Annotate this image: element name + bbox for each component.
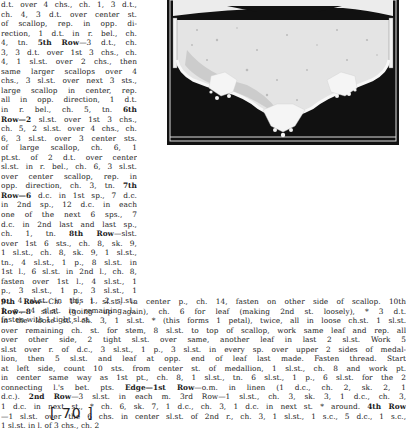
text-line: 4, tn. 5th Row—3 d.t., ch. — [1, 38, 137, 48]
text-line: at left side, count 10 sts. from center … — [1, 364, 406, 374]
text-line: pt.st. of 2 d.t. over center — [1, 153, 137, 163]
text-line: connecting l.'s bet. pts. Edge—1st Row—o… — [1, 383, 406, 393]
text-line: in the loose st., ch. 3, 1 sl.st. * (thi… — [1, 316, 406, 326]
text-line: d.t. over 4 chs., ch. 1, 3 d.t., — [1, 0, 137, 10]
text-line: of scallop, rep. in opp. di- — [1, 19, 137, 29]
text-line: rection, 1 d.t. in r. bel., ch. — [1, 29, 137, 39]
text-line: over remaining ch. st. for stem, 8 sl.st… — [1, 326, 406, 336]
text-line: of large scallop, ch. 6, 1 — [1, 143, 137, 153]
text-line: d.c. in 2nd last and last sp., — [1, 220, 137, 230]
text-line: one of the next 6 sps., 7 — [1, 210, 137, 220]
text-line: in center same way as 1st pt., ch. 8, 1 … — [1, 373, 406, 383]
text-line: d.c.). 2nd Row—3 sl.st. in each m. 3rd R… — [1, 392, 406, 402]
text-line: sl.st. in r. bel., ch. 6, 3 sl.st. — [1, 162, 137, 172]
text-line: 1 sl.st. in l. of 3 chs., ch. 2 — [1, 421, 406, 431]
text-line: opp. direction, ch. 3, tn. 7th — [1, 181, 137, 191]
text-line: fasten over 1st l., 4 sl.st., 1 — [1, 277, 137, 287]
text-line: over 1st 6 sts., ch. 8, sk. 9, — [1, 239, 137, 249]
text-line: 1st l., 6 sl.st. in 2nd l., ch. 8, — [1, 267, 137, 277]
left-text-column: d.t. over 4 chs., ch. 1, 3 d.t., ch. 4, … — [1, 0, 137, 325]
text-line: ch. 4, 3 d.t. over center st. — [1, 10, 137, 20]
text-line: Row—6 d.c. in 1st sp., 7 d.c. — [1, 191, 137, 201]
text-line: ch. 5, 2 sl.st. over 4 chs., ch. — [1, 124, 137, 134]
text-line: chs., 3 sl.st. over next 3 sts., — [1, 76, 137, 86]
text-line: 3, 3 d.t. over 1st 3 chs., ch. — [1, 48, 137, 58]
text-line: in 2nd sp., 12 d.c. in each — [1, 200, 137, 210]
text-line: ch. 1, tn. 8th Row—slst. — [1, 229, 137, 239]
text-line: same larger scallops over 4 — [1, 67, 137, 77]
text-line: all in opp. direction, 1 d.t. — [1, 95, 137, 105]
text-line: over other side, 2 tight sl.st. over sam… — [1, 335, 406, 345]
page-number: [ 70 ] — [50, 405, 94, 421]
text-line: 1 sl.st., ch. 8, sk. 9, 1 sl.st., — [1, 248, 137, 258]
text-line: 6, 3 sl.st. over 3 center sts. — [1, 134, 137, 144]
text-line: sl.st over r. of d.c., 3 sl.st., 1 p., 3… — [1, 345, 406, 355]
text-line: over center scallop, rep. in — [1, 172, 137, 182]
text-line: lion, then 5 sl.st. and leaf at opp. end… — [1, 354, 406, 364]
text-line: Row—2 sl.st. over 1st 3 chs., — [1, 115, 137, 125]
text-line: p., 3 sl.st., 1 p., 3 sl.st., 1 — [1, 286, 137, 296]
text-line: in r. bel., ch. 5, tn. 6th — [1, 105, 137, 115]
text-line: 9th Row—Ch. 14, 1 sl.st., in center p., … — [1, 297, 406, 307]
text-line: 4, 1 sl.st. over 2 chs., then — [1, 57, 137, 67]
text-line: large scallop in center, rep. — [1, 86, 137, 96]
lace-runner-photo — [167, 0, 399, 145]
text-line: tn., 4 sl.st., 1 p., 8 sl.st. in — [1, 258, 137, 268]
text-line: Row—8 sl.st. (going up again), ch. 6 for… — [1, 307, 406, 317]
